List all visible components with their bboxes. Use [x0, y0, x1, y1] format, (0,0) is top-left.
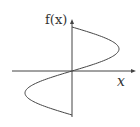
- x-axis-label: x: [117, 73, 125, 89]
- x-axis-arrow: [131, 69, 136, 73]
- y-axis-label: f(x): [45, 12, 67, 27]
- diagram-canvas: f(x) x: [0, 0, 140, 127]
- y-axis-arrow: [70, 19, 74, 24]
